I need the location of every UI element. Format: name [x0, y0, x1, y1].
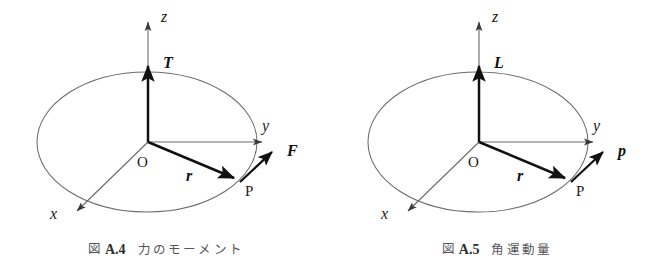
- x-axis-label: x: [380, 205, 388, 222]
- y-axis-label: y: [591, 117, 601, 135]
- origin-label: O: [468, 154, 479, 170]
- caption-mark: 図: [88, 238, 101, 257]
- caption-mark: 図: [442, 238, 455, 257]
- caption-number: A.4: [105, 242, 126, 258]
- applied-vector-arrow: [571, 152, 603, 182]
- diagram-a4: z y x T r F O P: [0, 0, 332, 235]
- z-axis-label: z: [160, 8, 168, 25]
- point-p-label: P: [576, 183, 584, 199]
- figure-page: z y x T r F O P 図A.4力のモーメント: [0, 0, 663, 279]
- x-axis-line: [408, 142, 479, 211]
- figure-caption-a5: 図A.5角運動量: [331, 238, 663, 258]
- figure-panel-a5: z y x L r p O P 図A.5角運動量: [331, 0, 663, 279]
- point-p-label: P: [245, 183, 253, 199]
- x-axis-line: [77, 142, 148, 211]
- diagram-a5: z y x L r p O P: [331, 0, 663, 235]
- caption-title: 角運動量: [491, 239, 552, 258]
- position-vector-label: r: [517, 167, 524, 184]
- position-vector-label: r: [186, 167, 193, 184]
- applied-vector-arrow: [240, 152, 272, 182]
- axis-vector-label: L: [493, 54, 504, 71]
- z-axis-label: z: [491, 8, 499, 25]
- axis-vector-label: T: [163, 54, 174, 71]
- x-axis-label: x: [49, 205, 57, 222]
- figure-caption-a4: 図A.4力のモーメント: [0, 238, 332, 258]
- applied-vector-label: F: [286, 142, 298, 159]
- caption-title: 力のモーメント: [138, 239, 244, 258]
- figure-panel-a4: z y x T r F O P 図A.4力のモーメント: [0, 0, 332, 279]
- applied-vector-label: p: [616, 142, 626, 160]
- origin-label: O: [137, 154, 148, 170]
- caption-number: A.5: [459, 242, 480, 258]
- y-axis-label: y: [260, 117, 270, 135]
